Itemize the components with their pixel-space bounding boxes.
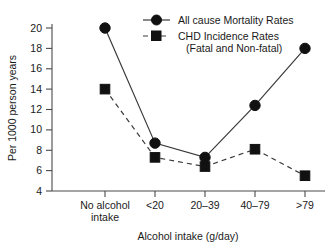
data-point-circle bbox=[200, 152, 210, 162]
chart-legend: All cause Mortality Rates CHD Incidence … bbox=[143, 14, 294, 54]
data-point-square bbox=[250, 144, 260, 154]
y-tick-label-16: 16 bbox=[30, 62, 42, 74]
y-tick-label-12: 12 bbox=[30, 103, 42, 115]
y-tick-label-18: 18 bbox=[30, 42, 42, 54]
data-point-circle bbox=[250, 100, 260, 110]
y-axis-title: Per 1000 person years bbox=[6, 55, 18, 161]
y-tick-label-14: 14 bbox=[30, 83, 42, 95]
data-point-circle bbox=[100, 23, 110, 33]
x-axis-title: Alcohol intake (g/day) bbox=[138, 230, 239, 242]
data-point-circle bbox=[150, 138, 160, 148]
x-tick-label-2: 20–39 bbox=[190, 199, 219, 211]
chart-container: 20 18 16 14 12 10 8 6 4 No alcohol intak… bbox=[0, 0, 331, 250]
data-point-square bbox=[100, 84, 110, 94]
y-tick-label-8: 8 bbox=[36, 144, 42, 156]
data-point-circle bbox=[300, 43, 310, 53]
x-tick-label-4: >79 bbox=[296, 199, 314, 211]
data-point-square bbox=[150, 153, 160, 163]
data-point-square bbox=[200, 162, 210, 172]
x-tick-label-1: <20 bbox=[146, 199, 164, 211]
y-tick-label-4: 4 bbox=[36, 185, 42, 197]
data-point-square bbox=[300, 171, 310, 181]
legend-marker-square-icon bbox=[152, 31, 162, 41]
y-tick-label-6: 6 bbox=[36, 164, 42, 176]
y-tick-label-10: 10 bbox=[30, 123, 42, 135]
x-tick-label-3: 40–79 bbox=[240, 199, 269, 211]
legend-label-mortality: All cause Mortality Rates bbox=[178, 14, 294, 26]
line-chart: 20 18 16 14 12 10 8 6 4 No alcohol intak… bbox=[0, 0, 331, 250]
y-axis-ticks bbox=[46, 28, 52, 191]
series-markers-chd bbox=[100, 84, 310, 180]
y-tick-label-20: 20 bbox=[30, 22, 42, 34]
legend-marker-circle-icon bbox=[152, 15, 162, 25]
legend-label-chd: CHD Incidence Rates bbox=[178, 30, 279, 42]
legend-sublabel-chd: (Fatal and Non-fatal) bbox=[186, 42, 282, 54]
x-tick-label-0-line1: No alcohol bbox=[80, 199, 130, 211]
x-tick-label-0-line2: intake bbox=[91, 211, 119, 223]
x-axis-ticks bbox=[105, 191, 305, 197]
